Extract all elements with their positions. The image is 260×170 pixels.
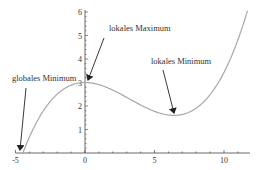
y-tick-label: 5 (78, 32, 82, 41)
plot-svg: -50510123456 globales Minimumlokales Max… (0, 0, 260, 170)
y-tick-label: 4 (78, 55, 82, 64)
label-local-minimum: lokales Minimum (151, 56, 212, 66)
label-local-maximum: lokales Maximum (109, 23, 171, 33)
x-tick-label: -5 (12, 156, 19, 165)
arrow-local-maximum (88, 38, 104, 80)
x-tick-label: 10 (220, 156, 228, 165)
x-tick-label: 5 (153, 156, 157, 165)
function-plot: -50510123456 globales Minimumlokales Max… (0, 0, 260, 170)
x-tick-label: 0 (83, 156, 87, 165)
arrow-global-minimum (20, 88, 26, 150)
y-tick-label: 1 (78, 126, 82, 135)
annotations: globales Minimumlokales Maximumlokales M… (12, 23, 212, 150)
arrow-local-minimum (163, 70, 174, 113)
y-tick-label: 2 (78, 102, 82, 111)
y-tick-label: 6 (78, 8, 82, 17)
label-global-minimum: globales Minimum (12, 73, 77, 83)
